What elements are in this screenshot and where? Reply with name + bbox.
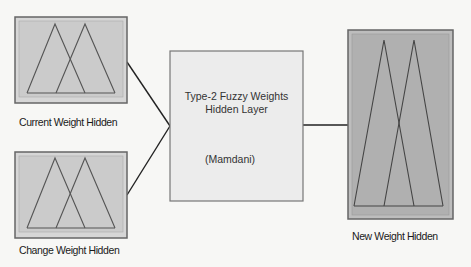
output-box-new-weight (348, 30, 453, 219)
output-label-new-weight: New Weight Hidden (352, 230, 438, 242)
input-box-current-weight (15, 17, 127, 103)
input-label-current-weight: Current Weight Hidden (19, 116, 117, 128)
connector-current-to-system (127, 62, 170, 126)
fuzzy-system-diagram (0, 0, 471, 267)
fuzzy-system-box (170, 51, 303, 201)
input-box-change-weight (15, 152, 127, 238)
system-title-line2: Hidden Layer (170, 103, 303, 116)
system-method: (Mamdani) (170, 153, 290, 166)
input-label-change-weight: Change Weight Hidden (19, 244, 119, 256)
system-title: Type-2 Fuzzy Weights Hidden Layer (170, 90, 303, 116)
connector-change-to-system (127, 126, 170, 195)
system-title-line1: Type-2 Fuzzy Weights (170, 90, 303, 103)
